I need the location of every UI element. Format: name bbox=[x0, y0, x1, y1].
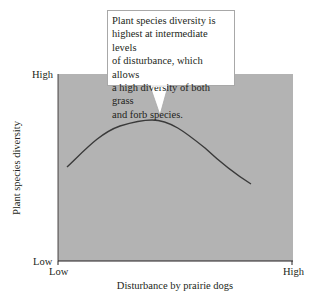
x-tick-high-label: High bbox=[283, 266, 304, 278]
callout-joint bbox=[0, 0, 316, 299]
x-axis-label: Disturbance by prairie dogs bbox=[117, 280, 233, 291]
y-tick-high-label: High bbox=[32, 69, 53, 81]
y-axis-label: Plant species diversity bbox=[11, 121, 22, 215]
x-tick-low-label: Low bbox=[49, 266, 68, 278]
